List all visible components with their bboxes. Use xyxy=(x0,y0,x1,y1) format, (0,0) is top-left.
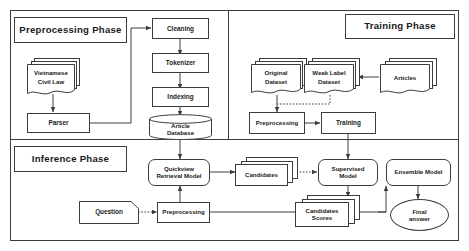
node-article-database: Article Database xyxy=(149,114,212,140)
phase-label-inference-text: Inference Phase xyxy=(32,154,109,165)
node-candidates-scores: Candidates Scores xyxy=(295,195,365,230)
node-label: Training xyxy=(336,119,361,126)
phase-label-training: Training Phase xyxy=(345,14,455,39)
node-articles: Articles xyxy=(380,58,446,96)
node-label: Articles xyxy=(394,75,416,84)
phase-label-preprocessing-text: Preprocessing Phase xyxy=(19,25,121,36)
document-front: Vietnamese Civil Law xyxy=(27,64,75,96)
node-supervised-model: Supervised Model xyxy=(318,159,378,186)
node-parser: Parser xyxy=(27,113,90,133)
node-label: Cleaning xyxy=(167,25,194,32)
node-candidates: Candidates xyxy=(235,157,301,189)
stack-front: Candidates xyxy=(235,164,288,186)
node-label: Tokenizer xyxy=(166,59,195,66)
node-label: Vietnamese Civil Law xyxy=(34,70,68,90)
node-tokenizer: Tokenizer xyxy=(152,53,209,73)
label-line-2: Dataset xyxy=(312,79,345,88)
label-line-2: Scores xyxy=(312,215,332,222)
document-front: Weak Label Dataset xyxy=(304,64,354,95)
node-label: Article Database xyxy=(149,123,212,137)
node-indexing: Indexing xyxy=(152,87,209,107)
node-inference-preprocessing: Preprocessing xyxy=(157,202,210,223)
node-cleaning: Cleaning xyxy=(152,18,209,39)
node-weak-label-dataset: Weak Label Dataset xyxy=(304,58,368,96)
label-line-2: Dataset xyxy=(264,79,287,88)
node-label: Preprocessing xyxy=(162,209,204,216)
label-line-2: Model xyxy=(339,173,357,180)
stack-front: Candidates Scores xyxy=(295,202,349,227)
phase-label-inference: Inference Phase xyxy=(14,146,127,172)
label-line-2: Retrieval Model xyxy=(156,173,201,180)
label-line-2: Database xyxy=(149,130,212,137)
node-label: Candidates xyxy=(245,172,278,179)
node-quickview-retrieval-model: Quickview Retrieval Model xyxy=(148,159,210,186)
node-training: Training xyxy=(321,112,376,134)
node-question: Question xyxy=(79,201,139,224)
label-line-1: Final xyxy=(412,208,426,215)
phase-label-preprocessing: Preprocessing Phase xyxy=(14,17,127,43)
node-label: Indexing xyxy=(167,93,193,100)
node-label: Parser xyxy=(49,119,69,126)
node-final-answer: Final answer xyxy=(390,199,449,231)
node-training-preprocessing: Preprocessing xyxy=(249,112,305,134)
node-label: Original Dataset xyxy=(264,70,287,90)
document-front: Articles xyxy=(380,64,430,95)
label-line-2: Civil Law xyxy=(34,79,68,88)
label-line-2: answer xyxy=(409,215,430,222)
phase-label-training-text: Training Phase xyxy=(364,21,436,32)
node-vietnamese-civil-law: Vietnamese Civil Law xyxy=(27,58,87,96)
node-label: Question xyxy=(95,208,123,217)
node-label: Preprocessing xyxy=(256,120,298,127)
diagram-canvas: Preprocessing Phase Training Phase Infer… xyxy=(0,0,469,251)
node-label: Ensemble Model xyxy=(394,169,442,176)
node-ensemble-model: Ensemble Model xyxy=(386,159,451,186)
node-label: Weak Label Dataset xyxy=(312,70,345,90)
document-front: Original Dataset xyxy=(251,64,301,95)
